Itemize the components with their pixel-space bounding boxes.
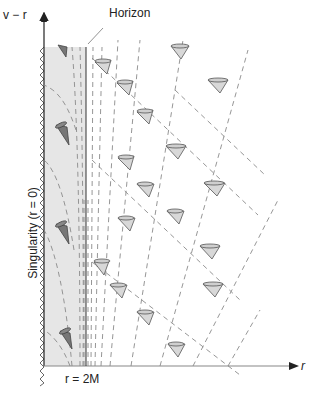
horizon-label: Horizon	[109, 6, 150, 20]
horizon-radius-label: r = 2M	[65, 372, 99, 386]
x-axis-label: r	[301, 359, 305, 373]
singularity-label: Singularity (r = 0)	[26, 178, 40, 288]
horizon-line	[86, 28, 103, 366]
y-axis-label: v − r	[3, 8, 27, 22]
light-cones-outside	[94, 44, 228, 357]
spacetime-diagram	[0, 0, 321, 393]
